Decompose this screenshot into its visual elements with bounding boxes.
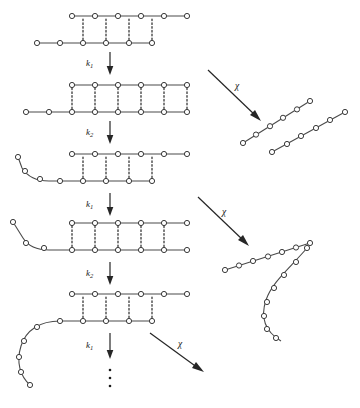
- complex-1: [34, 13, 189, 45]
- node: [304, 245, 309, 250]
- step-1-arrow: k1: [86, 52, 113, 75]
- node: [92, 82, 97, 87]
- node: [126, 178, 131, 183]
- complex-5-rungs: [83, 297, 152, 318]
- complex-5: [16, 291, 189, 387]
- node: [16, 354, 21, 359]
- node: [184, 291, 189, 296]
- node: [184, 13, 189, 18]
- node: [184, 247, 189, 252]
- complex-2-top-strand: [69, 82, 189, 87]
- node: [293, 245, 298, 250]
- node: [149, 40, 154, 45]
- node: [34, 40, 39, 45]
- node: [115, 247, 120, 252]
- complex-4: [10, 219, 189, 252]
- chi-label-2: χ: [221, 207, 227, 217]
- node: [222, 267, 227, 272]
- node: [41, 245, 46, 250]
- node: [161, 291, 166, 296]
- complex-3-top-strand: [69, 151, 189, 156]
- node: [271, 285, 276, 290]
- node: [92, 151, 97, 156]
- node: [307, 98, 312, 103]
- node: [149, 178, 154, 183]
- node: [15, 154, 20, 159]
- complex-1-rungs: [83, 19, 152, 40]
- node: [92, 109, 97, 114]
- complex-2-rungs: [72, 88, 187, 109]
- node: [161, 109, 166, 114]
- node: [138, 151, 143, 156]
- node: [10, 219, 15, 224]
- complex-2: [23, 82, 189, 114]
- node: [298, 133, 303, 138]
- node: [69, 13, 74, 18]
- node: [273, 335, 278, 340]
- complex-1-bottom-strand: [34, 40, 154, 45]
- node: [37, 176, 42, 181]
- node: [184, 82, 189, 87]
- node: [161, 220, 166, 225]
- rate-label-k1-b: k1: [86, 199, 93, 210]
- node: [307, 240, 312, 245]
- node: [138, 247, 143, 252]
- complex-3-rungs: [83, 157, 152, 178]
- node: [264, 299, 269, 304]
- node: [115, 151, 120, 156]
- node: [126, 318, 131, 323]
- node: [57, 318, 62, 323]
- node: [23, 109, 28, 114]
- node: [103, 178, 108, 183]
- chi-label-1: χ: [234, 81, 240, 91]
- continuation-ellipsis: [109, 369, 112, 388]
- node: [280, 115, 285, 120]
- node: [184, 109, 189, 114]
- chi-label-3: χ: [177, 339, 183, 349]
- node: [138, 82, 143, 87]
- node: [69, 82, 74, 87]
- node: [103, 318, 108, 323]
- reaction-scheme-diagram: k1 χ: [0, 0, 360, 408]
- node: [269, 149, 274, 154]
- complex-3: [15, 151, 189, 183]
- node: [80, 40, 85, 45]
- node: [279, 249, 284, 254]
- node: [27, 382, 32, 387]
- node: [138, 220, 143, 225]
- node: [69, 247, 74, 252]
- complex-1-top-strand: [69, 13, 189, 18]
- dissociation-arrow-2: χ: [198, 197, 249, 246]
- node: [161, 82, 166, 87]
- node: [22, 168, 27, 173]
- node: [261, 313, 266, 318]
- node: [92, 247, 97, 252]
- node: [184, 220, 189, 225]
- node: [115, 13, 120, 18]
- complex-4-rungs: [72, 226, 164, 247]
- node: [327, 117, 332, 122]
- node: [293, 259, 298, 264]
- node: [138, 13, 143, 18]
- complex-5-top-strand: [69, 291, 189, 296]
- node: [281, 272, 286, 277]
- node: [265, 254, 270, 259]
- node: [92, 13, 97, 18]
- dissociation-arrow-3: χ: [150, 333, 204, 372]
- complex-5-bottom-strand-with-tail: [16, 318, 154, 387]
- node: [138, 291, 143, 296]
- step-5-arrow: k1: [86, 333, 113, 359]
- step-4-arrow: k2: [86, 262, 113, 285]
- node: [115, 109, 120, 114]
- node: [103, 40, 108, 45]
- rate-label-k2: k2: [86, 127, 94, 138]
- node: [149, 318, 154, 323]
- node: [18, 369, 23, 374]
- node: [342, 109, 347, 114]
- node: [267, 124, 272, 129]
- rate-label-k1: k1: [86, 58, 93, 69]
- step-3-arrow: k1: [86, 193, 113, 216]
- node: [115, 291, 120, 296]
- dissociation-arrow-1: χ: [208, 70, 261, 121]
- node: [21, 338, 26, 343]
